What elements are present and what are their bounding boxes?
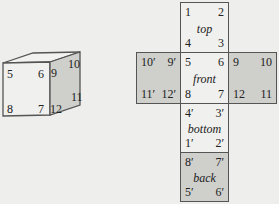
corner-label: 9′ [167,56,176,68]
face-name-back: back [181,171,228,186]
corner-label: 1′ [185,137,194,149]
face-name-top: top [181,22,228,37]
corner-label: 5 [185,56,191,68]
corner-label: 8 [185,88,191,100]
face-name-front: front [181,72,228,87]
net-face-back: 8′ 7′ back 5′ 6′ [180,152,229,202]
face-name-bottom: bottom [181,122,228,137]
corner-label: 10 [260,56,272,68]
corner-label: 6′ [215,186,224,198]
corner-label: 7′ [215,156,224,168]
cube-label-10: 10 [68,57,80,71]
corner-label: 6 [218,56,224,68]
net-face-top: 1 2 top 4 3 [180,2,229,53]
net-face-left: 10′ 9′ 11′ 12′ [136,52,181,104]
corner-label: 3 [218,37,224,49]
corner-label: 1 [185,6,191,18]
corner-label: 11 [260,88,272,100]
net-face-bottom: 4′ 3′ bottom 1′ 2′ [180,103,229,153]
corner-label: 9 [233,56,239,68]
corner-label: 2 [218,6,224,18]
cube-label-9: 9 [51,66,57,80]
cube-label-11: 11 [71,90,83,104]
cube-label-8: 8 [7,102,13,116]
corner-label: 12 [233,88,245,100]
corner-label: 4′ [185,107,194,119]
cube-label-7: 7 [38,102,44,116]
corner-label: 4 [185,37,191,49]
corner-label: 11′ [141,88,155,100]
corner-label: 3′ [215,107,224,119]
corner-label: 10′ [141,56,156,68]
net-face-right: 9 10 12 11 [228,52,277,104]
corner-label: 7 [218,88,224,100]
corner-label: 8′ [185,156,194,168]
corner-label: 5′ [185,186,194,198]
cube-label-6: 6 [38,67,44,81]
net-face-front: 5 6 front 8 7 [180,52,229,104]
corner-label: 12′ [161,88,176,100]
cube-drawing: 5 6 7 8 9 10 11 12 [0,50,90,120]
corner-label: 2′ [215,137,224,149]
cube-label-12: 12 [50,102,62,116]
cube-label-5: 5 [7,67,13,81]
